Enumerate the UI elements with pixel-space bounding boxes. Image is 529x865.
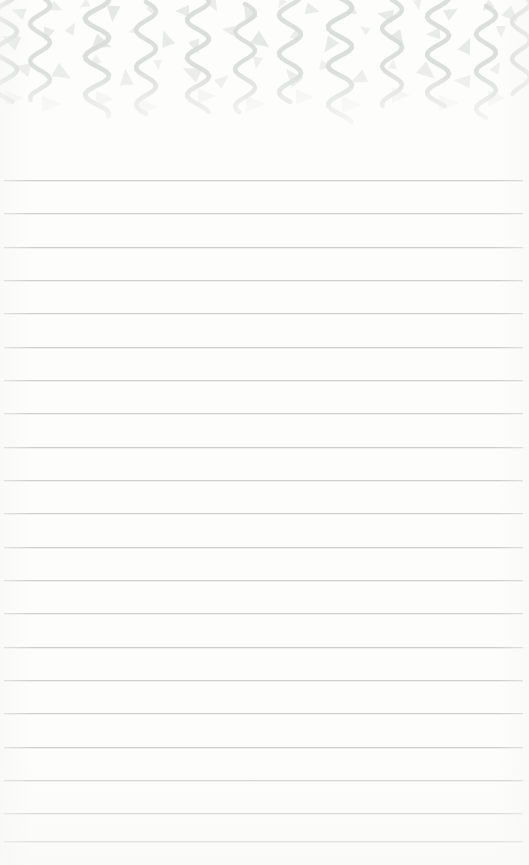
- writing-row[interactable]: [8, 717, 519, 747]
- rule-line: [4, 841, 523, 842]
- confetti-triangle: [426, 27, 441, 40]
- confetti-triangle: [9, 4, 26, 20]
- rule-line: [4, 747, 523, 748]
- confetti-triangle: [296, 89, 314, 104]
- confetti-triangle: [251, 56, 263, 70]
- confetti-triangle: [275, 0, 287, 10]
- writing-row[interactable]: [8, 811, 519, 841]
- writing-row[interactable]: [8, 750, 519, 780]
- writing-row[interactable]: [8, 283, 519, 313]
- confetti-triangle: [388, 59, 397, 70]
- confetti-triangle: [49, 1, 64, 15]
- rule-line: [4, 647, 523, 648]
- writing-row[interactable]: [8, 417, 519, 447]
- confetti-triangle: [238, 3, 258, 24]
- writing-row[interactable]: [8, 450, 519, 480]
- confetti-triangle: [443, 3, 461, 20]
- confetti-triangle: [246, 96, 266, 113]
- confetti-triangle: [106, 5, 121, 22]
- confetti-triangle: [453, 74, 470, 89]
- paper-grain-overlay: [0, 0, 529, 865]
- confetti-triangle: [127, 26, 139, 37]
- confetti-triangle: [13, 59, 32, 76]
- streamer-squiggle: [187, 0, 209, 112]
- streamer-squiggle: [476, 6, 496, 118]
- streamer-squiggle: [427, 0, 449, 106]
- writing-row[interactable]: [8, 650, 519, 680]
- confetti-triangle: [96, 91, 114, 106]
- writing-row[interactable]: [8, 150, 519, 180]
- rule-line: [4, 280, 523, 281]
- streamer-squiggle: [30, 0, 50, 100]
- confetti-triangle: [157, 28, 175, 48]
- confetti-triangle: [119, 68, 134, 85]
- confetti-triangle: [188, 38, 204, 55]
- confetti-triangle: [65, 20, 80, 35]
- rule-line: [4, 347, 523, 348]
- confetti-triangle: [280, 64, 303, 88]
- confetti-triangle: [39, 26, 55, 43]
- confetti-triangle: [51, 63, 74, 85]
- rule-line: [4, 380, 523, 381]
- confetti-triangle: [490, 59, 505, 74]
- confetti-header-decoration: [0, 0, 529, 135]
- confetti-triangle: [5, 90, 23, 105]
- confetti-triangle: [496, 26, 506, 38]
- rule-line: [4, 780, 523, 781]
- streamer-squiggle: [85, 0, 109, 116]
- confetti-triangle: [416, 61, 440, 84]
- writing-row[interactable]: [8, 683, 519, 713]
- confetti-triangle: [388, 29, 411, 53]
- rule-line: [4, 413, 523, 414]
- writing-row[interactable]: [8, 217, 519, 247]
- confetti-triangle: [290, 26, 303, 40]
- writing-row[interactable]: [8, 350, 519, 380]
- writing-row[interactable]: [8, 550, 519, 580]
- writing-row[interactable]: [8, 383, 519, 413]
- confetti-triangle: [175, 5, 189, 17]
- streamer-squiggle: [279, 0, 301, 102]
- rule-line: [4, 247, 523, 248]
- confetti-triangle: [138, 99, 158, 116]
- writing-row[interactable]: [8, 617, 519, 647]
- rule-line: [4, 180, 523, 181]
- rule-line: [4, 313, 523, 314]
- confetti-triangle: [92, 34, 114, 55]
- confetti-triangle: [357, 23, 370, 36]
- confetti-triangle: [86, 54, 102, 69]
- writing-row[interactable]: [8, 250, 519, 280]
- rule-line: [4, 480, 523, 481]
- writing-row[interactable]: [8, 317, 519, 347]
- confetti-graphic: [0, 0, 529, 135]
- streamer-squiggle: [0, 0, 17, 102]
- confetti-triangle: [392, 87, 410, 102]
- confetti-triangle: [457, 35, 476, 55]
- confetti-triangle: [376, 7, 394, 23]
- writing-row[interactable]: [8, 583, 519, 613]
- streamer-squiggle: [512, 0, 529, 94]
- streamer-group: [0, 0, 529, 122]
- rule-line: [4, 680, 523, 681]
- confetti-triangle: [146, 0, 159, 13]
- rule-line: [4, 513, 523, 514]
- writing-row[interactable]: [8, 483, 519, 513]
- confetti-triangle: [319, 36, 339, 57]
- confetti-triangle: [319, 60, 333, 72]
- rule-line: [4, 547, 523, 548]
- confetti-triangle: [207, 0, 222, 14]
- confetti-triangle: [342, 97, 362, 114]
- confetti-triangle: [348, 69, 368, 88]
- confetti-triangle: [347, 2, 357, 14]
- rule-line: [4, 713, 523, 714]
- writing-row[interactable]: [8, 183, 519, 213]
- confetti-triangle: [413, 0, 423, 11]
- streamer-squiggle: [235, 4, 255, 112]
- confetti-triangle: [479, 0, 495, 15]
- confetti-triangle: [214, 71, 232, 89]
- triangle-confetti-group: [0, 0, 522, 115]
- writing-row[interactable]: [8, 783, 519, 813]
- confetti-triangle: [250, 31, 274, 54]
- confetti-triangle: [180, 61, 203, 82]
- writing-row[interactable]: [8, 517, 519, 547]
- rule-line: [4, 580, 523, 581]
